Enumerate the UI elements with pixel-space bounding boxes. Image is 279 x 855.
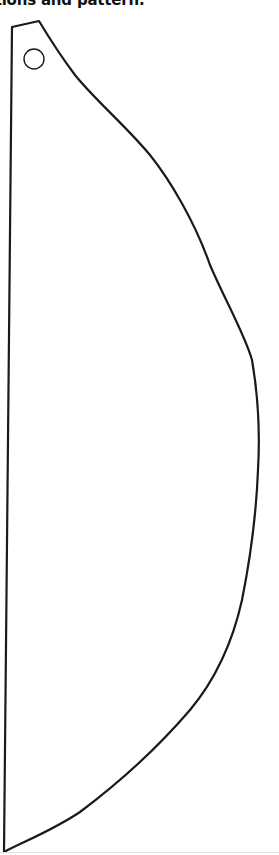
pattern-outline bbox=[4, 21, 259, 852]
cutout-pattern-shape bbox=[0, 0, 279, 855]
page-bottom-rule bbox=[0, 852, 279, 853]
